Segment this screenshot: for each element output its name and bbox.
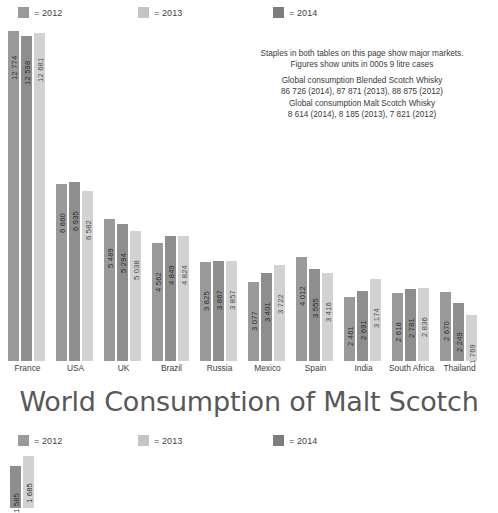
legend-top-swatch-icon-2013 (138, 7, 149, 18)
bar-mexico-2013[interactable]: 3 401 (261, 273, 272, 361)
bar-value-label: 1 769 (466, 318, 477, 364)
legend-top-item-2012: = 2012 (18, 7, 62, 18)
bars-container: 2 6182 7812 836 (392, 26, 429, 361)
bars-container: 4 5624 8494 824 (152, 26, 189, 361)
bar-value-label: 2 781 (405, 292, 416, 338)
legend-bottom-item-2013: = 2013 (138, 435, 182, 446)
legend-bottom-swatch-icon-2013 (138, 435, 149, 446)
bar-value-label: 12 681 (34, 36, 45, 82)
bar-uk-2013[interactable]: 5 294 (117, 224, 128, 361)
bar-value-label: 12 774 (8, 34, 19, 80)
bar-chart-plot: 12 77412 59812 6816 8606 9356 5825 4895 … (0, 26, 498, 361)
bar-usa-2012[interactable]: 6 860 (56, 184, 67, 361)
legend-top-label: = 2013 (154, 8, 182, 18)
bar-uk-2012[interactable]: 5 489 (104, 219, 115, 361)
legend-bottom-swatch-icon-2012 (18, 435, 29, 446)
bars-container: 5 4895 2945 038 (104, 26, 141, 361)
legend-bottom-swatch-icon-2014 (273, 435, 284, 446)
legend-top: = 2012= 2013= 2014 (0, 0, 498, 26)
bar-value-label: 4 824 (178, 239, 189, 285)
bar-brazil-2014[interactable]: 4 824 (178, 236, 189, 361)
bar-value-label: 3 722 (274, 268, 285, 314)
bar-value-label: 4 012 (296, 260, 307, 306)
bar-value-label: 2 461 (344, 300, 355, 346)
bar-brazil-2012[interactable]: 4 562 (152, 243, 163, 361)
legend-top-item-2013: = 2013 (138, 7, 182, 18)
bar-france-2013[interactable]: 12 598 (21, 36, 32, 361)
bar-thailand-2012[interactable]: 2 670 (440, 292, 451, 361)
bar-value-label: 2 836 (418, 291, 429, 337)
bars-container: 4 0123 5553 416 (296, 26, 333, 361)
legend-top-label: = 2012 (34, 8, 62, 18)
bar-value-label: 6 935 (69, 185, 80, 231)
x-axis-label-france: France (0, 363, 55, 373)
bottom-bar-1[interactable]: 1 685 (23, 456, 34, 508)
bar-value-label: 6 860 (56, 187, 67, 233)
bar-value-label: 3 174 (370, 282, 381, 328)
bar-value-label: 6 582 (82, 194, 93, 240)
bar-usa-2014[interactable]: 6 582 (82, 191, 93, 361)
bar-value-label: 3 401 (261, 276, 272, 322)
bar-mexico-2012[interactable]: 3 077 (248, 282, 259, 361)
bars-container: 2 6702 2491 769 (440, 26, 477, 361)
bar-value-label: 4 849 (165, 239, 176, 285)
bar-usa-2013[interactable]: 6 935 (69, 182, 80, 361)
bar-russia-2013[interactable]: 3 867 (213, 261, 224, 361)
bar-russia-2014[interactable]: 3 857 (226, 261, 237, 361)
bar-value-label: 3 077 (248, 285, 259, 331)
bar-value-label: 3 416 (322, 276, 333, 322)
bar-value-label: 5 038 (130, 234, 141, 280)
bottom-bar-0[interactable]: 1 585 (10, 466, 21, 508)
bars-container: 2 4612 6913 174 (344, 26, 381, 361)
bars-container: 3 0773 4013 722 (248, 26, 285, 361)
bar-value-label: 5 294 (117, 227, 128, 273)
bar-spain-2014[interactable]: 3 416 (322, 273, 333, 361)
bar-thailand-2014[interactable]: 1 769 (466, 315, 477, 361)
bar-value-label: 3 867 (213, 264, 224, 310)
legend-top-label: = 2014 (289, 8, 317, 18)
x-axis-label-india: India (336, 363, 391, 373)
bottom-bar-value-label: 1 585 (10, 469, 21, 513)
x-axis-labels: FranceUSAUKBrazilRussiaMexicoSpainIndiaS… (0, 363, 498, 377)
bar-spain-2012[interactable]: 4 012 (296, 257, 307, 361)
legend-top-swatch-icon-2014 (273, 7, 284, 18)
x-axis-label-thailand: Thailand (432, 363, 487, 373)
bar-russia-2012[interactable]: 3 825 (200, 262, 211, 361)
bar-thailand-2013[interactable]: 2 249 (453, 303, 464, 361)
legend-bottom: = 2012= 2013= 2014 (0, 428, 498, 450)
bar-value-label: 3 857 (226, 264, 237, 310)
bars-container: 6 8606 9356 582 (56, 26, 93, 361)
bar-south-africa-2013[interactable]: 2 781 (405, 289, 416, 361)
x-axis-label-brazil: Brazil (144, 363, 199, 373)
bottom-chart-plot: 1 5851 685 (0, 452, 498, 508)
bar-mexico-2014[interactable]: 3 722 (274, 265, 285, 361)
bars-container: 12 77412 59812 681 (8, 26, 45, 361)
bar-spain-2013[interactable]: 3 555 (309, 269, 320, 361)
bar-india-2012[interactable]: 2 461 (344, 297, 355, 361)
bar-value-label: 12 598 (21, 39, 32, 85)
x-axis-label-russia: Russia (192, 363, 247, 373)
legend-top-item-2014: = 2014 (273, 7, 317, 18)
page-title: World Consumption of Malt Scotch (0, 386, 498, 417)
x-axis-label-spain: Spain (288, 363, 343, 373)
bar-value-label: 2 670 (440, 295, 451, 341)
bar-south-africa-2012[interactable]: 2 618 (392, 293, 403, 361)
bar-india-2013[interactable]: 2 691 (357, 291, 368, 361)
bar-value-label: 2 618 (392, 296, 403, 342)
bar-south-africa-2014[interactable]: 2 836 (418, 288, 429, 361)
bottom-bar-value-label: 1 685 (23, 459, 34, 503)
x-axis-label-uk: UK (96, 363, 151, 373)
bar-value-label: 2 691 (357, 294, 368, 340)
bars-container: 3 8253 8673 857 (200, 26, 237, 361)
legend-bottom-label: = 2014 (289, 436, 317, 446)
x-axis-label-usa: USA (48, 363, 103, 373)
bar-brazil-2013[interactable]: 4 849 (165, 236, 176, 361)
bar-uk-2014[interactable]: 5 038 (130, 231, 141, 361)
legend-top-swatch-icon-2012 (18, 7, 29, 18)
legend-bottom-label: = 2012 (34, 436, 62, 446)
bar-france-2014[interactable]: 12 681 (34, 33, 45, 361)
bar-india-2014[interactable]: 3 174 (370, 279, 381, 361)
legend-bottom-item-2012: = 2012 (18, 435, 62, 446)
bar-france-2012[interactable]: 12 774 (8, 31, 19, 361)
bar-value-label: 4 562 (152, 246, 163, 292)
